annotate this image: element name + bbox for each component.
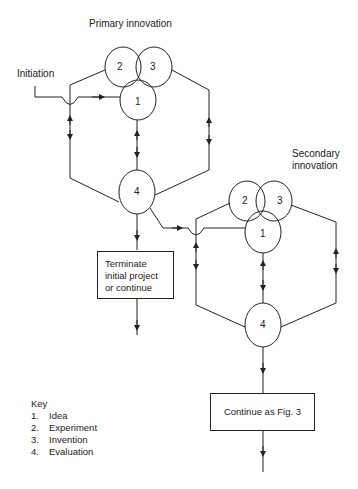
secondary-node-1-label: 1 (260, 228, 266, 240)
secondary-node-2-label: 2 (242, 195, 248, 207)
key-item: 1.Idea (31, 410, 97, 422)
initiation-label: Initiation (17, 68, 54, 80)
terminate-box: Terminate initial project or continue (97, 251, 174, 299)
secondary-innovation-title-2: innovation (292, 160, 338, 172)
primary-node-2-label: 2 (117, 61, 123, 73)
key-legend: Key 1.Idea 2.Experiment 3.Invention 4.Ev… (31, 398, 97, 458)
continue-label: Continue as Fig. 3 (224, 406, 301, 418)
terminate-line-2: initial project (105, 270, 173, 282)
key-item: 3.Invention (31, 434, 97, 446)
terminate-line-3: or continue (105, 282, 173, 294)
key-item: 2.Experiment (31, 422, 97, 434)
primary-node-4-label: 4 (134, 186, 140, 198)
secondary-innovation-title-1: Secondary (292, 148, 340, 160)
key-title: Key (31, 398, 97, 410)
secondary-node-4-label: 4 (260, 319, 266, 331)
key-item: 4.Evaluation (31, 446, 97, 458)
primary-node-1-label: 1 (135, 96, 141, 108)
primary-innovation-title: Primary innovation (89, 18, 172, 30)
secondary-node-3-label: 3 (277, 195, 283, 207)
primary-node-3-label: 3 (150, 61, 156, 73)
terminate-line-1: Terminate (105, 258, 173, 270)
continue-box: Continue as Fig. 3 (210, 393, 315, 431)
